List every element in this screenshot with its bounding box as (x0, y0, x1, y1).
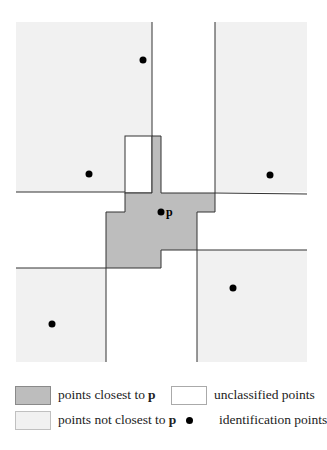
p-symbol: p (148, 387, 156, 403)
region-top-right (215, 22, 307, 192)
p-label: p (166, 205, 173, 219)
legend-closest-label: points closest to (58, 387, 145, 403)
legend-identification: identification points (171, 410, 327, 430)
p-point (158, 209, 165, 216)
unclassified-swatch (171, 386, 207, 405)
legend-unclassified: unclassified points (171, 385, 315, 405)
top-left-point (140, 57, 147, 64)
voronoi-diagram: p (0, 0, 326, 375)
region-bottom-left (16, 268, 106, 362)
left-point (86, 171, 93, 178)
unclassified-box (125, 136, 152, 193)
closest-swatch (15, 386, 51, 405)
legend: points closest to p points not closest t… (0, 380, 326, 440)
legend-closest: points closest to p (15, 385, 156, 405)
legend-not-closest-label: points not closest to (58, 412, 166, 428)
legend-identification-label: identification points (219, 412, 327, 428)
bottom-right-point (230, 285, 237, 292)
right-point (267, 172, 274, 179)
not-closest-swatch (15, 411, 51, 430)
legend-unclassified-label: unclassified points (214, 387, 315, 403)
point-icon (171, 411, 207, 430)
region-bottom-right (197, 250, 307, 362)
legend-not-closest: points not closest to p (15, 410, 176, 430)
bottom-left-point (49, 321, 56, 328)
